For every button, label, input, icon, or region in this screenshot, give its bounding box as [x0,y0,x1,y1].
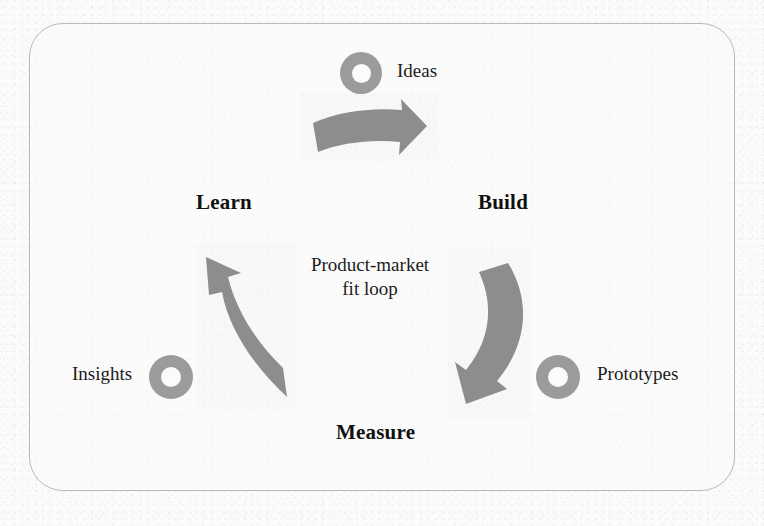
artifact-label-ideas: Ideas [397,60,437,82]
center-caption-line-2: fit loop [287,277,453,301]
stage-label-learn: Learn [196,190,252,215]
artifact-label-insights: Insights [72,363,132,385]
ring-icon-insights [149,355,193,399]
artifact-label-prototypes: Prototypes [597,363,678,385]
stage-label-measure: Measure [336,420,415,445]
ring-icon-ideas [340,52,382,94]
diagram-canvas: Build Measure Learn Product-market fit l… [0,0,764,526]
center-caption-line-1: Product-market [287,253,453,277]
ring-icon-prototypes [536,355,580,399]
center-caption: Product-market fit loop [287,253,453,302]
stage-label-build: Build [478,190,528,215]
